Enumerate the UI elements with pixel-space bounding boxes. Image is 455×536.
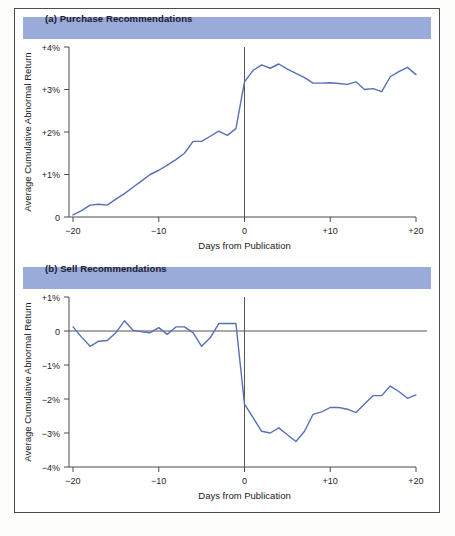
panel-a-ylabel: Average Cumulative Abnormal Return xyxy=(22,52,33,211)
panel-a-ytick-0: 0 xyxy=(55,213,60,223)
panel-a-ytick-3: +3% xyxy=(42,85,60,95)
panel-b-title: (b) Sell Recommendations xyxy=(45,263,167,274)
panel-b-ytick-0: −4% xyxy=(42,463,60,473)
panel-a-ytick-2: +2% xyxy=(42,128,60,138)
panel-a-plot-area: +4% +3% +2% +1% 0 −20 −10 0 xyxy=(15,39,441,251)
panel-b-svg: +1% 0 −1% −2% −3% −4% −20 −10 xyxy=(15,289,441,501)
panel-a-svg: +4% +3% +2% +1% 0 −20 −10 0 xyxy=(15,39,441,251)
panel-b-ylabel: Average Cumulative Abnormal Return xyxy=(22,302,33,461)
panel-a-xtick-3: +10 xyxy=(323,226,338,236)
panel-a-ytick-4: +4% xyxy=(42,43,60,53)
panel-b-xtick-1: −10 xyxy=(151,476,166,486)
panel-a-x-ticks xyxy=(73,217,416,222)
panel-b-xlabel: Days from Publication xyxy=(198,490,290,501)
panel-b-ytick-1: −3% xyxy=(42,429,60,439)
panel-b-plot-area: +1% 0 −1% −2% −3% −4% −20 −10 xyxy=(15,289,441,501)
panel-a-xlabel: Days from Publication xyxy=(198,240,290,251)
panel-b-xtick-4: +20 xyxy=(408,476,423,486)
panel-b-ytick-4: 0 xyxy=(55,327,60,337)
figure-frame: (a) Purchase Recommendations +4 xyxy=(14,8,440,513)
panel-b-x-ticks xyxy=(73,467,416,472)
panel-b-y-ticks xyxy=(64,297,69,467)
panel-a-xtick-2: 0 xyxy=(242,226,247,236)
panel-purchase-recommendations: (a) Purchase Recommendations +4 xyxy=(15,9,439,259)
panel-a-y-ticks xyxy=(64,47,69,217)
panel-b-xtick-3: +10 xyxy=(323,476,338,486)
panel-b-xtick-0: −20 xyxy=(65,476,80,486)
panel-b-ytick-5: +1% xyxy=(42,293,60,303)
panel-b-xtick-2: 0 xyxy=(242,476,247,486)
figure-page: (a) Purchase Recommendations +4 xyxy=(0,0,455,536)
panel-a-xtick-1: −10 xyxy=(151,226,166,236)
panel-a-xtick-4: +20 xyxy=(408,226,423,236)
panel-a-xtick-0: −20 xyxy=(65,226,80,236)
panel-b-ytick-3: −1% xyxy=(42,361,60,371)
panel-sell-recommendations: (b) Sell Recommendations xyxy=(15,259,439,511)
panel-b-ytick-2: −2% xyxy=(42,395,60,405)
panel-a-title: (a) Purchase Recommendations xyxy=(45,13,192,24)
panel-a-ytick-1: +1% xyxy=(42,170,60,180)
